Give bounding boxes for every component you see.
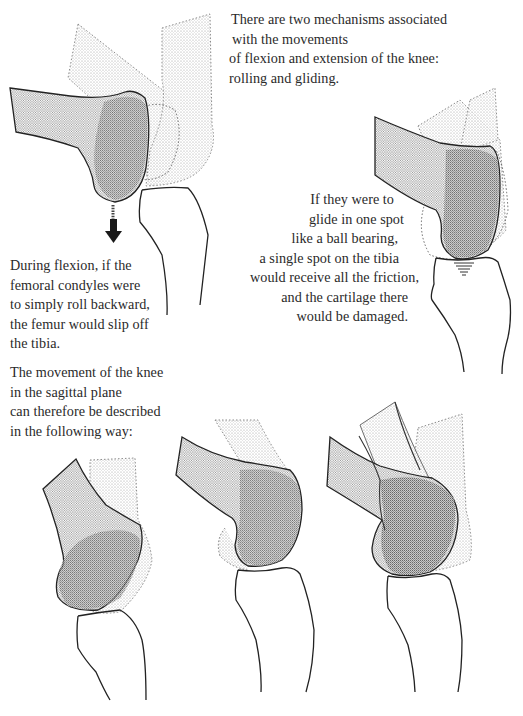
tibia (431, 258, 510, 375)
ghost-femur-b (460, 88, 498, 150)
tibia (77, 610, 146, 700)
summary-paragraph: The movement of the knee in the sagittal… (10, 363, 163, 441)
intro-paragraph: There are two mechanisms associated with… (229, 10, 447, 88)
combined-motion-step-2 (176, 420, 314, 692)
roll-note-line: to simply roll backward, (10, 295, 150, 315)
glide-note-line: a single spot on the tibia (250, 249, 408, 269)
intro-line: rolling and gliding. (229, 69, 447, 89)
glide-note-line: If they were to (250, 190, 408, 210)
tibia (235, 568, 314, 692)
intro-line: of flexion and extension of the knee: (229, 49, 447, 69)
glide-note-line: and the cartilage there (250, 288, 408, 308)
combined-motion-step-1 (43, 458, 152, 700)
glide-note-line: glide in one spot (250, 210, 408, 230)
glide-note-line: like a ball bearing, (250, 229, 408, 249)
roll-note-line: the femur would slip off (10, 315, 150, 335)
down-arrow-icon (105, 205, 122, 243)
summary-line: in the sagittal plane (10, 383, 163, 403)
roll-note-paragraph: During flexion, if the femoral condyles … (10, 256, 150, 354)
summary-line: can therefore be described (10, 402, 163, 422)
summary-line: The movement of the knee (10, 363, 163, 383)
intro-line: There are two mechanisms associated (229, 10, 447, 30)
roll-note-line: During flexion, if the (10, 256, 150, 276)
glide-note-line: would be damaged. (250, 307, 408, 327)
illustrations (0, 0, 523, 716)
combined-motion-step-3 (327, 402, 471, 692)
tibia (387, 574, 462, 692)
intro-line: with the movements (229, 30, 447, 50)
roll-note-line: the tibia. (10, 334, 150, 354)
glide-note-line: would receive all the friction, (250, 268, 408, 288)
friction-marks (454, 263, 474, 275)
glide-note-paragraph: If they were to glide in one spot like a… (250, 190, 408, 327)
condyle-shading (238, 469, 301, 565)
summary-line: in the following way: (10, 422, 163, 442)
roll-note-line: femoral condyles were (10, 276, 150, 296)
